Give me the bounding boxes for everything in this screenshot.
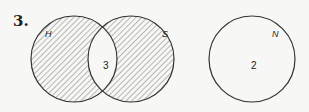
set-n-value: 2 [251,60,257,71]
set-n-circle [209,16,295,102]
set-h-label: H [45,29,52,39]
intersection-value: 3 [103,60,109,71]
set-n-label: N [272,29,279,39]
shaded-region [31,16,174,102]
venn-diagram: H S 3 N 2 [0,0,309,112]
set-s-label: S [162,29,168,39]
